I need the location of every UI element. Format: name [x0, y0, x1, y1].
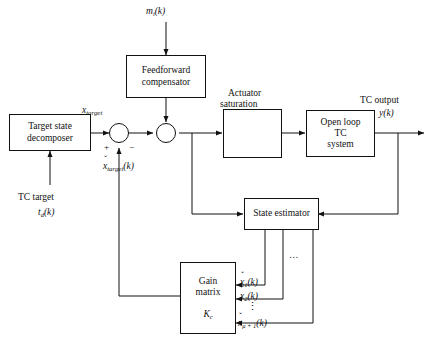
label-actuator-saturation-line2: saturation [220, 99, 257, 110]
sum1-plus-sign: + [104, 142, 109, 152]
summing-junction-1[interactable] [109, 123, 129, 143]
sum1-minus-sign: − [129, 142, 134, 152]
label-state-n: ˇxμ + 1(k) [238, 318, 267, 329]
block-gain-matrix[interactable]: Gain matrix Kc [180, 262, 236, 334]
label-tc-target: TC target [18, 192, 54, 203]
label-actuator-saturation-line1: Actuator [228, 88, 261, 99]
target-state-decomposer-line2: decomposer [27, 133, 73, 144]
label-state-ellipsis: … [289, 250, 300, 261]
block-diagram-canvas: Target state decomposer Feedforward comp… [0, 0, 431, 350]
label-disturbance-input: mi(k) [146, 6, 165, 17]
block-feedforward-compensator[interactable]: Feedforward compensator [126, 55, 206, 98]
block-actuator-saturation[interactable] [223, 109, 282, 158]
block-target-state-decomposer[interactable]: Target state decomposer [9, 114, 91, 151]
gain-matrix-line2: matrix [196, 287, 221, 298]
label-x-target: xtarget [82, 105, 102, 117]
feedforward-compensator-line2: compensator [142, 77, 191, 88]
open-loop-tc-system-line1: Open loop [321, 117, 361, 128]
target-state-decomposer-line1: Target state [28, 121, 72, 132]
label-tc-output-symbol: y(k) [379, 108, 394, 119]
label-tc-output: TC output [360, 95, 399, 106]
label-tc-target-symbol: td(k) [38, 207, 54, 218]
feedforward-compensator-line1: Feedforward [142, 65, 191, 76]
gain-matrix-line1: Gain [199, 276, 217, 287]
open-loop-tc-system-line3: system [327, 139, 353, 150]
open-loop-tc-system-line2: TC [334, 128, 346, 139]
block-open-loop-tc-system[interactable]: Open loop TC system [306, 110, 375, 157]
state-estimator-label: State estimator [253, 208, 310, 219]
gain-matrix-symbol: Kc [203, 309, 212, 320]
summing-junction-2[interactable] [156, 123, 176, 143]
label-vertical-ellipsis: ⋮ [247, 303, 258, 311]
label-x-target-hat: ˇxtarget(k) [103, 161, 134, 173]
block-state-estimator[interactable]: State estimator [244, 198, 319, 230]
